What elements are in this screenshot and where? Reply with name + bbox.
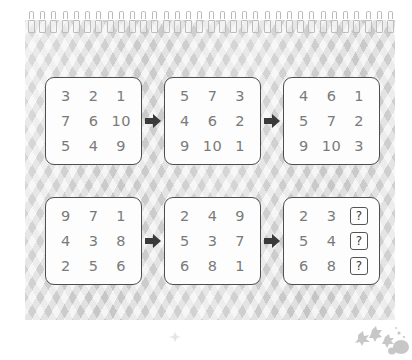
grid-row: 971 bbox=[52, 204, 135, 229]
number-cell: 2 bbox=[226, 113, 254, 129]
spiral-wire bbox=[174, 11, 179, 33]
spiral-wire-ring bbox=[387, 20, 394, 33]
grid-row: 573 bbox=[171, 84, 254, 109]
number-cell: 1 bbox=[345, 88, 373, 104]
spiral-wire-ring bbox=[50, 20, 57, 33]
spiral-wire-ring bbox=[275, 20, 282, 33]
number-cell: 3 bbox=[318, 208, 346, 224]
spiral-wire bbox=[95, 11, 100, 33]
number-cell: 1 bbox=[107, 208, 135, 224]
spiral-wire-ring bbox=[264, 20, 271, 33]
spiral-wire-top bbox=[40, 11, 45, 19]
spiral-wire bbox=[50, 11, 55, 33]
spiral-wire-ring bbox=[320, 20, 327, 33]
spiral-wire-top bbox=[388, 11, 393, 19]
spiral-wire-ring bbox=[353, 20, 360, 33]
question-mark-box[interactable]: ? bbox=[350, 207, 368, 225]
spiral-wire-top bbox=[309, 11, 314, 19]
number-cell: 4 bbox=[290, 88, 318, 104]
grid-row: 7610 bbox=[52, 109, 135, 134]
spiral-wire-ring bbox=[39, 20, 46, 33]
number-cell: 9 bbox=[226, 208, 254, 224]
spiral-wire bbox=[331, 11, 336, 33]
number-cell: 7 bbox=[318, 113, 346, 129]
spiral-wire-ring bbox=[140, 20, 147, 33]
number-cell: 2 bbox=[345, 113, 373, 129]
spiral-wire-ring bbox=[129, 20, 136, 33]
spiral-wire-ring bbox=[308, 20, 315, 33]
screenshot-root: 321761054957346291014615729103 971438256… bbox=[0, 0, 412, 360]
spiral-wire bbox=[376, 11, 381, 33]
unknown-cell[interactable]: ? bbox=[345, 257, 373, 275]
spiral-wire-ring bbox=[28, 20, 35, 33]
spiral-wire-ring bbox=[365, 20, 372, 33]
grid-row: 54? bbox=[290, 229, 373, 254]
spiral-wire bbox=[163, 11, 168, 33]
unknown-cell[interactable]: ? bbox=[345, 232, 373, 250]
spiral-wire bbox=[208, 11, 213, 33]
number-cell: 5 bbox=[171, 88, 199, 104]
grid-row: 256 bbox=[52, 253, 135, 278]
spiral-wire bbox=[230, 11, 235, 33]
top-sequence-row: 321761054957346291014615729103 bbox=[45, 77, 380, 165]
spiral-wire-top bbox=[231, 11, 236, 19]
spiral-wire bbox=[151, 11, 156, 33]
spiral-wire-top bbox=[141, 11, 146, 19]
spiral-wire-ring bbox=[252, 20, 259, 33]
spiral-wire bbox=[219, 11, 224, 33]
number-cell: 6 bbox=[171, 258, 199, 274]
question-mark-box[interactable]: ? bbox=[350, 232, 368, 250]
spiral-wire-top bbox=[197, 11, 202, 19]
number-cell: 1 bbox=[226, 138, 254, 154]
grid-row: 537 bbox=[171, 229, 254, 254]
number-cell: 3 bbox=[199, 233, 227, 249]
spiral-wire bbox=[73, 11, 78, 33]
arrow-head bbox=[272, 234, 280, 248]
spiral-wire-top bbox=[119, 11, 124, 19]
spiral-wire-top bbox=[152, 11, 157, 19]
number-cell: 2 bbox=[171, 208, 199, 224]
spiral-wire-ring bbox=[196, 20, 203, 33]
grid-row: 68? bbox=[290, 253, 373, 278]
spiral-wire-top bbox=[96, 11, 101, 19]
spiral-wire bbox=[286, 11, 291, 33]
number-cell: 10 bbox=[318, 138, 346, 154]
number-cell: 5 bbox=[80, 258, 108, 274]
spiral-wire bbox=[118, 11, 123, 33]
arrow-head bbox=[272, 114, 280, 128]
spiral-wire bbox=[365, 11, 370, 33]
spiral-wire-top bbox=[276, 11, 281, 19]
spiral-wire-top bbox=[175, 11, 180, 19]
spiral-wire-top bbox=[298, 11, 303, 19]
spiral-wire-ring bbox=[219, 20, 226, 33]
number-grid-card-3: 4615729103 bbox=[283, 77, 380, 165]
number-cell: 9 bbox=[171, 138, 199, 154]
number-cell: 9 bbox=[290, 138, 318, 154]
number-cell: 6 bbox=[80, 113, 108, 129]
spiral-wire-top bbox=[343, 11, 348, 19]
spiral-wire bbox=[241, 11, 246, 33]
spiral-wire-top bbox=[130, 11, 135, 19]
spiral-wire bbox=[107, 11, 112, 33]
decorative-speck-icon bbox=[168, 330, 186, 344]
spiral-wire-top bbox=[209, 11, 214, 19]
number-cell: 5 bbox=[290, 233, 318, 249]
spiral-wire-top bbox=[354, 11, 359, 19]
spiral-wire-ring bbox=[107, 20, 114, 33]
number-cell: 3 bbox=[345, 138, 373, 154]
number-cell: 7 bbox=[52, 113, 80, 129]
arrow-head bbox=[153, 114, 161, 128]
spiral-wire bbox=[252, 11, 257, 33]
spiral-wire bbox=[196, 11, 201, 33]
spiral-wire-top bbox=[366, 11, 371, 19]
question-mark-box[interactable]: ? bbox=[350, 257, 368, 275]
number-cell: 7 bbox=[80, 208, 108, 224]
spiral-wire bbox=[129, 11, 134, 33]
number-cell: 2 bbox=[80, 88, 108, 104]
spiral-wire-top bbox=[74, 11, 79, 19]
unknown-cell[interactable]: ? bbox=[345, 207, 373, 225]
spiral-wire-top bbox=[287, 11, 292, 19]
spiral-wire bbox=[39, 11, 44, 33]
spiral-wire-ring bbox=[151, 20, 158, 33]
bottom-sequence-row: 97143825624953768123?54?68? bbox=[45, 197, 380, 285]
